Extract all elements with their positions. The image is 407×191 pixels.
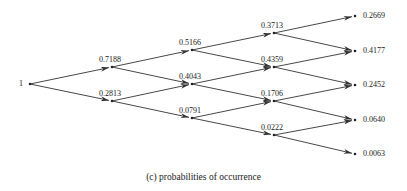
tree-node-dot	[354, 15, 357, 18]
probability-tree	[0, 0, 407, 191]
tree-edge	[274, 86, 352, 101]
tree-edge	[274, 67, 352, 84]
tree-edge	[274, 101, 352, 119]
tree-edge	[274, 121, 352, 135]
node-probability-label: 0.1706	[261, 90, 283, 98]
node-probability-label: 0.0063	[363, 150, 385, 158]
tree-edge	[192, 50, 271, 66]
tree-edge	[192, 68, 271, 84]
tree-node-dot	[191, 49, 194, 52]
tree-nodes	[29, 15, 357, 156]
tree-node-dot	[29, 83, 32, 86]
tree-edge	[192, 102, 271, 118]
tree-node-dot	[273, 66, 276, 69]
node-probability-label: 0.2813	[99, 90, 121, 98]
tree-node-dot	[111, 100, 114, 103]
tree-node-dot	[111, 66, 114, 69]
tree-edge	[274, 52, 352, 67]
node-probability-label: 1	[19, 80, 23, 88]
tree-node-dot	[273, 100, 276, 103]
tree-node-dot	[354, 50, 357, 53]
node-probability-label: 0.4359	[261, 56, 283, 64]
node-probability-label: 0.3713	[261, 22, 283, 30]
tree-node-dot	[354, 84, 357, 87]
node-probability-label: 0.0222	[261, 124, 283, 132]
tree-edge	[112, 85, 189, 101]
tree-node-dot	[273, 32, 276, 35]
node-probability-label: 0.0791	[179, 107, 201, 115]
tree-edge	[192, 34, 271, 50]
tree-edge	[30, 84, 109, 100]
tree-edge	[192, 84, 271, 100]
node-probability-label: 0.5166	[179, 39, 201, 47]
tree-edge	[112, 51, 189, 67]
node-probability-label: 0.4043	[179, 73, 201, 81]
tree-edge	[192, 118, 271, 134]
tree-edge	[112, 67, 189, 83]
tree-node-dot	[191, 117, 194, 120]
tree-edge	[274, 135, 352, 153]
node-probability-label: 0.0640	[363, 116, 385, 124]
node-probability-label: 0.7188	[99, 56, 121, 64]
node-probability-label: 0.2452	[363, 81, 385, 89]
tree-edge	[274, 33, 352, 50]
tree-edge	[30, 68, 109, 84]
tree-node-dot	[354, 153, 357, 156]
tree-node-dot	[354, 119, 357, 122]
figure-caption: (c) probabilities of occurrence	[0, 172, 407, 182]
tree-edge	[274, 17, 352, 33]
tree-node-dot	[273, 134, 276, 137]
node-probability-label: 0.4177	[363, 47, 385, 55]
node-probability-label: 0.2669	[363, 12, 385, 20]
tree-node-dot	[191, 83, 194, 86]
tree-edge	[112, 101, 189, 117]
